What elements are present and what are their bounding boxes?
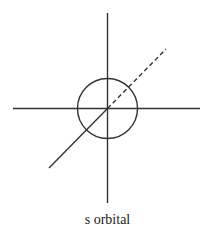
s-orbital-diagram bbox=[0, 0, 210, 238]
diagram-caption: s orbital bbox=[0, 211, 210, 229]
